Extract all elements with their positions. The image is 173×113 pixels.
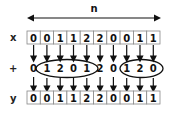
length-arrow: n (27, 3, 161, 22)
y-cell: 1 (150, 93, 157, 104)
x-cell: 2 (97, 33, 104, 44)
x-cell: 0 (123, 33, 130, 44)
y-cell: 0 (123, 93, 130, 104)
x-cell: 1 (150, 33, 157, 44)
y-cell: 1 (137, 93, 144, 104)
x-cell: 0 (110, 33, 117, 44)
row-label-x: x (10, 32, 17, 43)
row-label-plus: + (9, 63, 17, 74)
y-cell: 0 (30, 93, 37, 104)
arrow-right-icon (154, 15, 161, 22)
y-cell: 0 (110, 93, 117, 104)
y-cell: 1 (70, 93, 77, 104)
x-cell: 1 (70, 33, 77, 44)
plus-value: 2 (57, 63, 64, 74)
x-cell: 1 (57, 33, 64, 44)
y-cell: 1 (57, 93, 64, 104)
row-y: 0 0 1 1 2 2 0 0 1 1 (27, 91, 160, 104)
row-plus: 0 1 2 0 1 2 0 1 2 0 (30, 63, 157, 74)
arrow-left-icon (27, 15, 34, 22)
plus-value: 1 (123, 63, 130, 74)
plus-value: 2 (137, 63, 144, 74)
length-label: n (90, 3, 97, 14)
y-cell: 0 (43, 93, 50, 104)
row-x: 0 0 1 1 2 2 0 0 1 1 (27, 31, 160, 44)
row-label-y: y (10, 93, 17, 104)
x-cell: 1 (137, 33, 144, 44)
plus-value: 0 (110, 63, 117, 74)
arrows-plus-to-y (34, 77, 154, 89)
plus-value: 1 (83, 63, 90, 74)
plus-value: 0 (150, 63, 157, 74)
plus-value: 0 (70, 63, 77, 74)
x-cell: 0 (43, 33, 50, 44)
y-cell: 2 (83, 93, 90, 104)
plus-value: 1 (43, 63, 50, 74)
x-cell: 0 (30, 33, 37, 44)
y-cell: 2 (97, 93, 104, 104)
arrows-x-to-plus (34, 45, 154, 59)
diagram-canvas: n x + y 0 0 1 1 2 2 0 0 1 1 0 1 2 0 1 2 … (0, 0, 173, 113)
x-cell: 2 (83, 33, 90, 44)
